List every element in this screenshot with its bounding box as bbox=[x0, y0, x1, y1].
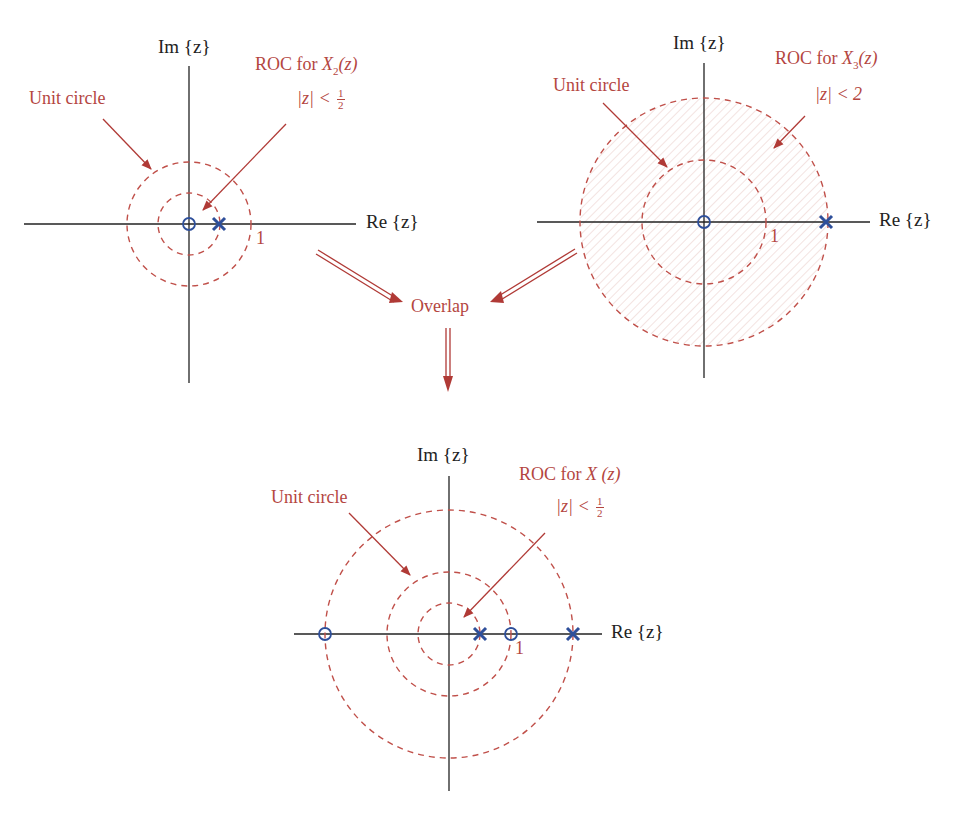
real-axis-label: Re {z} bbox=[366, 211, 419, 233]
plot-x2 bbox=[24, 66, 356, 383]
roc-title: ROC for X2(z) bbox=[255, 54, 358, 77]
unit-circle-label: Unit circle bbox=[29, 88, 105, 109]
imag-axis-label: Im {z} bbox=[673, 32, 726, 54]
roc-arrow bbox=[203, 124, 286, 210]
unit-tick-label: 1 bbox=[770, 226, 779, 247]
roc-condition: |z| < 2 bbox=[815, 84, 862, 105]
unit-tick-label: 1 bbox=[515, 638, 524, 659]
plot-x3 bbox=[537, 63, 870, 378]
roc-title: ROC for X3(z) bbox=[775, 48, 878, 71]
real-axis-label: Re {z} bbox=[611, 621, 664, 643]
imag-axis-label: Im {z} bbox=[417, 444, 470, 466]
flow-arrows bbox=[316, 249, 577, 392]
arrow-x2-to-overlap bbox=[316, 250, 403, 303]
diagram-canvas bbox=[0, 0, 960, 822]
roc-condition: |z| < 12 bbox=[297, 88, 345, 111]
unit-circle-label: Unit circle bbox=[271, 487, 347, 508]
plot-x bbox=[294, 476, 602, 791]
imag-axis-label: Im {z} bbox=[158, 36, 211, 58]
unit-circle-arrow bbox=[349, 513, 410, 575]
overlap-label: Overlap bbox=[411, 296, 469, 317]
unit-circle-arrow bbox=[103, 119, 151, 169]
roc-condition: |z| < 12 bbox=[556, 496, 604, 519]
roc-title: ROC for X (z) bbox=[519, 464, 621, 485]
real-axis-label: Re {z} bbox=[879, 209, 932, 231]
unit-tick-label: 1 bbox=[256, 228, 265, 249]
unit-circle-label: Unit circle bbox=[553, 75, 629, 96]
roc-arrow bbox=[464, 533, 545, 617]
arrow-overlap-to-x bbox=[443, 328, 453, 392]
arrow-x3-to-overlap bbox=[490, 249, 577, 303]
